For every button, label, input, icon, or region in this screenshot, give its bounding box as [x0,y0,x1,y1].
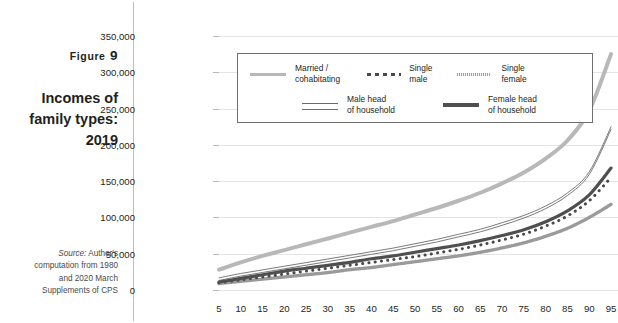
male-head-swatch-icon [300,99,340,111]
x-axis-tick-label: 90 [584,303,595,314]
legend-item-male-head[interactable]: Male headof household [300,94,395,116]
source-line-3: and 2020 March [59,274,118,283]
caption-column: Figure 9 Incomes of family types: 2019 S… [0,0,133,323]
legend-label-married: Married /cohabitating [295,63,340,85]
figure-container: Figure 9 Incomes of family types: 2019 S… [0,0,618,323]
legend-item-married[interactable]: Married /cohabitating [248,63,340,85]
single-female-swatch-icon [454,68,494,80]
x-axis-tick-label: 5 [216,303,221,314]
y-axis-tick-label: 150,000 [49,176,135,187]
x-axis-tick-label: 40 [366,303,377,314]
y-axis-tick-label: 100,000 [49,212,135,223]
legend-item-single-female[interactable]: Singlefemale [454,63,526,85]
x-axis-tick-label: 50 [410,303,421,314]
x-axis-tick-label: 60 [453,303,464,314]
x-axis-tick-label: 70 [497,303,508,314]
legend-label-male-head: Male headof household [347,94,395,116]
x-axis-tick-label: 45 [388,303,399,314]
y-axis-tick-label: 250,000 [49,103,135,114]
legend-item-female-head[interactable]: Female headof household [441,94,537,116]
series-line-male-head-of-household [219,127,611,278]
single-male-swatch-icon [362,68,402,80]
x-axis-tick-label: 55 [431,303,442,314]
legend-item-single-male[interactable]: Singlemale [362,63,432,85]
legend: Married /cohabitating Singlemale Singlef… [237,53,593,123]
x-axis-tick-label: 10 [235,303,246,314]
legend-label-female-head: Female headof household [488,94,537,116]
x-axis-tick-label: 75 [519,303,530,314]
x-axis-tick-label: 25 [301,303,312,314]
legend-row-top: Married /cohabitating Singlemale Singlef… [248,63,527,85]
figure-label: Figure 9 [70,48,118,63]
x-axis-tick-label: 15 [257,303,268,314]
y-axis-tick-label: 50,000 [49,248,135,259]
plot-area: 050,000100,000150,000200,000250,000300,0… [133,0,618,323]
x-axis-tick-label: 35 [344,303,355,314]
female-head-swatch-icon [441,99,481,111]
source-line-2: computation from 1980 [34,261,118,270]
married-swatch-icon [248,68,288,80]
figure-number: 9 [110,48,118,63]
legend-label-single-female: Singlefemale [501,63,526,85]
x-axis-tick-label: 85 [562,303,573,314]
y-axis-tick-label: 200,000 [49,139,135,150]
series-line-female-head-of-household [219,168,611,282]
legend-row-bottom: Male headof household Female headof hous… [300,94,537,116]
y-axis-tick-label: 300,000 [49,67,135,78]
y-axis-tick-label: 0 [49,285,135,296]
x-axis: 5101520253035404550556065707580859095 [133,303,618,317]
x-axis-tick-label: 30 [323,303,334,314]
x-axis-tick-label: 65 [475,303,486,314]
figure-word: Figure [70,50,106,62]
y-axis-tick-label: 350,000 [49,31,135,42]
x-axis-tick-label: 80 [540,303,551,314]
legend-label-single-male: Singlemale [409,63,432,85]
chart-lines [133,0,618,323]
x-axis-tick-label: 20 [279,303,290,314]
x-axis-tick-label: 95 [606,303,617,314]
